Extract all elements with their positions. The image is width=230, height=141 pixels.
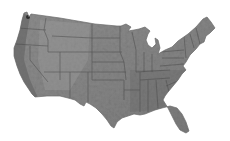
land-mass [0,0,230,141]
us-map [0,0,230,141]
southeast-shade [130,70,185,112]
us-map-graphic [0,0,230,141]
